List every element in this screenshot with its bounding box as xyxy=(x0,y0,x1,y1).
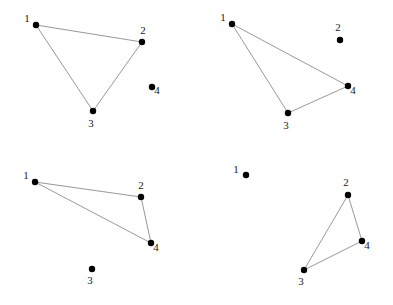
graph-edge xyxy=(93,42,142,111)
graph-node-label: 1 xyxy=(233,163,239,175)
graph-node xyxy=(301,267,307,273)
graph-edge xyxy=(232,24,348,86)
panel-top-right: 1234 xyxy=(220,11,356,131)
graph-figure: 1234123412341234 xyxy=(0,0,393,305)
graph-node xyxy=(138,194,144,200)
graph-node-label: 3 xyxy=(298,275,304,287)
graph-node-label: 2 xyxy=(343,176,349,188)
graph-edge xyxy=(141,197,151,243)
graph-node xyxy=(139,39,145,45)
graph-node-label: 2 xyxy=(140,24,146,36)
graph-node xyxy=(89,266,95,272)
graph-node-label: 1 xyxy=(24,12,30,24)
graph-node xyxy=(243,172,249,178)
graph-edge xyxy=(35,182,141,197)
graph-node xyxy=(337,37,343,43)
graph-edge xyxy=(36,25,93,111)
graph-edge xyxy=(288,86,348,113)
graph-node-label: 4 xyxy=(364,239,370,251)
graph-node xyxy=(33,22,39,28)
graph-node-label: 4 xyxy=(154,84,160,96)
graph-node-label: 3 xyxy=(88,117,94,129)
figure-canvas: 1234123412341234 xyxy=(0,0,393,305)
graph-node xyxy=(32,179,38,185)
graph-node-label: 2 xyxy=(335,21,341,33)
panel-top-left: 1234 xyxy=(24,12,160,129)
graph-node-label: 1 xyxy=(23,169,29,181)
graph-edge xyxy=(36,25,142,42)
graph-node-label: 4 xyxy=(153,241,159,253)
graph-node-label: 1 xyxy=(220,11,226,23)
graph-node xyxy=(285,110,291,116)
graph-node xyxy=(90,108,96,114)
graph-edge xyxy=(35,182,151,243)
graph-node xyxy=(345,192,351,198)
graph-edge xyxy=(232,24,288,113)
panel-bottom-right: 1234 xyxy=(233,163,370,287)
panel-bottom-left: 1234 xyxy=(23,169,159,286)
graph-edge xyxy=(348,195,362,241)
graph-node-label: 3 xyxy=(283,119,289,131)
graph-node-label: 3 xyxy=(87,274,93,286)
graph-node-label: 4 xyxy=(350,84,356,96)
graph-node-label: 2 xyxy=(138,179,144,191)
graph-node xyxy=(229,21,235,27)
